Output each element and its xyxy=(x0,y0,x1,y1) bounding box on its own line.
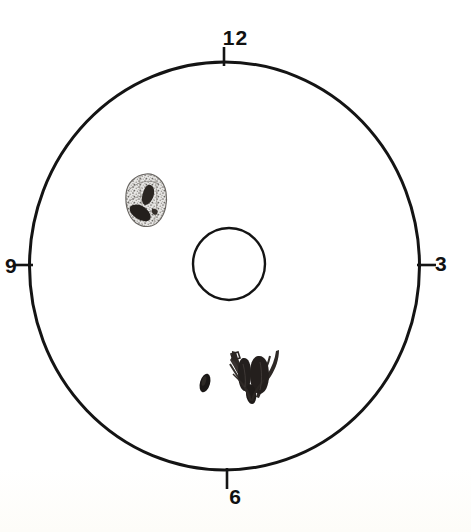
clock-label-9: 9 xyxy=(5,255,18,276)
clock-label-3: 3 xyxy=(435,253,448,274)
center-circle xyxy=(193,228,265,300)
feature-antler-shaped-mark xyxy=(230,350,279,404)
feature-speckled-oval-lesion xyxy=(120,170,172,232)
diagram-canvas xyxy=(0,0,471,532)
clock-label-6: 6 xyxy=(0,486,471,507)
clock-face-diagram: 12 3 6 9 xyxy=(0,0,471,532)
clock-label-12: 12 xyxy=(0,27,471,48)
outer-boundary-circle xyxy=(30,62,420,470)
feature-small-dark-ellipse xyxy=(198,372,213,393)
